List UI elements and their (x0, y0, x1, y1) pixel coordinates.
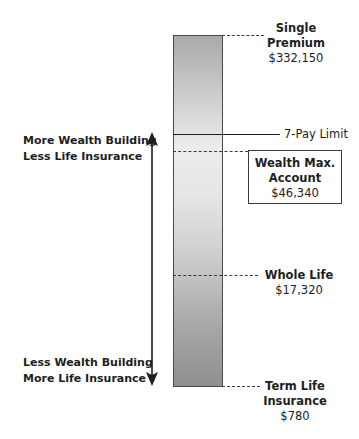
less-wealth-text: Less Wealth Building More Life Insurance (23, 355, 153, 387)
seven-pay-limit-label: 7-Pay Limit (284, 127, 348, 141)
term-life-leader (222, 386, 260, 387)
single-premium-value: $332,150 (269, 51, 324, 65)
less-wealth-line-1: Less Wealth Building (23, 355, 153, 371)
more-wealth-line-1: More Wealth Building (23, 133, 157, 149)
whole-life-title: Whole Life (262, 268, 336, 283)
term-life-title-1: Term Life (262, 379, 328, 394)
whole-life-label: Whole Life $17,320 (262, 268, 336, 298)
double-arrow (140, 130, 164, 388)
wealth-max-value: $46,340 (271, 186, 319, 200)
more-wealth-line-2: Less Life Insurance (23, 149, 157, 165)
more-wealth-text: More Wealth Building Less Life Insurance (23, 133, 157, 165)
whole-life-value: $17,320 (275, 283, 323, 297)
single-premium-leader (222, 35, 264, 36)
wealth-max-box: Wealth Max. Account $46,340 (248, 150, 342, 204)
less-wealth-line-2: More Life Insurance (23, 371, 153, 387)
wealth-max-title-2: Account (249, 171, 341, 186)
term-life-title-2: Insurance (262, 394, 328, 409)
premium-range-bar (173, 35, 223, 387)
term-life-label: Term Life Insurance $780 (262, 379, 328, 424)
single-premium-label: Single Premium $332,150 (262, 21, 330, 66)
term-life-value: $780 (280, 409, 309, 423)
wealth-max-leader (173, 151, 248, 152)
single-premium-title-1: Single (262, 21, 330, 36)
single-premium-title-2: Premium (262, 36, 330, 51)
whole-life-leader (173, 275, 258, 276)
seven-pay-limit-line (173, 134, 280, 135)
wealth-max-title-1: Wealth Max. (249, 156, 341, 171)
